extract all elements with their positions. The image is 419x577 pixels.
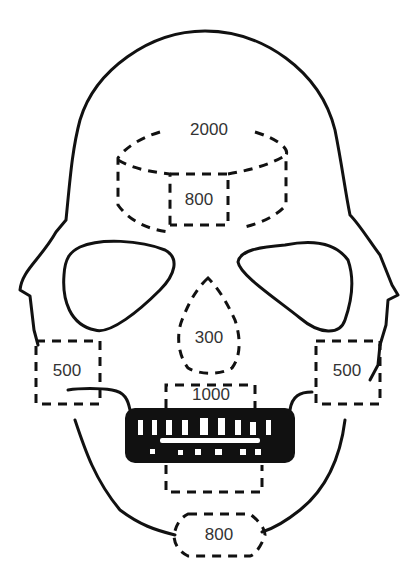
- teeth: [125, 408, 295, 463]
- nasal-region: [179, 278, 240, 373]
- skull-outline: [20, 31, 398, 345]
- skull-diagram: [0, 0, 419, 577]
- left-eye-socket: [64, 241, 174, 330]
- region-label-maxilla: 1000: [192, 385, 230, 405]
- region-label-chin: 800: [205, 525, 233, 545]
- vertex-region: [118, 132, 287, 232]
- right-eye-socket: [238, 243, 352, 331]
- region-label-forehead: 800: [185, 190, 213, 210]
- region-label-vertex: 2000: [190, 120, 228, 140]
- region-label-cheek-left: 500: [53, 361, 81, 381]
- region-label-nasal: 300: [195, 328, 223, 348]
- region-label-cheek-right: 500: [333, 361, 361, 381]
